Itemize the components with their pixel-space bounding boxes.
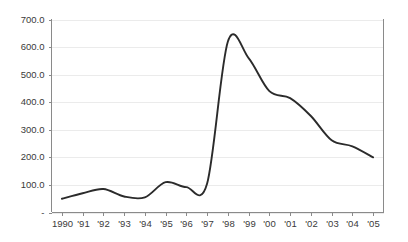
x-axis-tick-label: '95: [160, 218, 172, 229]
y-axis-tick-label: 300.0: [21, 124, 45, 135]
x-axis-tick-label: '00: [263, 218, 275, 229]
x-axis-tick-label: '93: [118, 218, 130, 229]
x-axis-tick-label: '98: [222, 218, 234, 229]
x-axis-tick-label: '97: [201, 218, 213, 229]
x-axis-tick-label: '94: [139, 218, 151, 229]
x-axis-tick-label: 1990: [52, 218, 73, 229]
y-tick-labels: 700.0600.0500.0400.0300.0200.0100.0-: [21, 14, 45, 218]
y-axis-tick-label: 500.0: [21, 69, 45, 80]
chart-canvas: 700.0600.0500.0400.0300.0200.0100.0- 199…: [0, 0, 408, 242]
data-series-line: [62, 34, 373, 199]
y-axis-tick-label: 600.0: [21, 41, 45, 52]
y-axis-tick-label: -: [41, 207, 44, 218]
x-axis-tick-label: '99: [243, 218, 255, 229]
y-axis-tick-label: 200.0: [21, 151, 45, 162]
x-axis-tick-label: '04: [346, 218, 358, 229]
x-axis-tick-label: '01: [284, 218, 296, 229]
y-axis-tick-label: 400.0: [21, 96, 45, 107]
x-tick-labels: 1990'91'92'93'94'95'96'97'98'99'00'01'02…: [52, 218, 380, 229]
x-axis-tick-label: '92: [97, 218, 109, 229]
x-axis-tick-label: '96: [180, 218, 192, 229]
line-chart: 700.0600.0500.0400.0300.0200.0100.0- 199…: [0, 0, 408, 242]
x-axis-tick-label: '02: [305, 218, 317, 229]
y-axis-tick-label: 100.0: [21, 179, 45, 190]
x-axis-tick-label: '91: [77, 218, 89, 229]
x-axis-group: 1990'91'92'93'94'95'96'97'98'99'00'01'02…: [52, 213, 384, 229]
y-axis-tick-label: 700.0: [21, 14, 45, 25]
x-axis-tick-label: '03: [326, 218, 338, 229]
x-axis-tick-label: '05: [367, 218, 379, 229]
y-axis-group: 700.0600.0500.0400.0300.0200.0100.0-: [21, 14, 52, 218]
